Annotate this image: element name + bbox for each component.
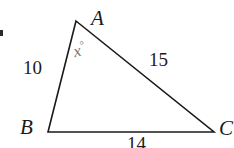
vertex-label-b: B [20, 117, 33, 138]
side-length-label-ac: 15 [149, 50, 168, 69]
vertex-label-c: C [219, 118, 233, 139]
triangle-outline [48, 21, 214, 132]
triangle-figure: A B C 10 15 14 x° [0, 0, 234, 148]
side-length-label-ab: 10 [23, 58, 42, 77]
side-length-label-bc: 14 [127, 134, 146, 148]
vertex-label-a: A [91, 8, 104, 29]
left-edge-artifact-mark [0, 30, 3, 36]
